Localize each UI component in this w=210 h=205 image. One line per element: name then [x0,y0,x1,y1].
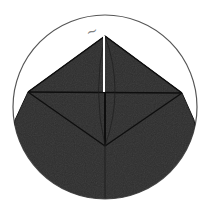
geometry-figure [0,0,210,205]
diagram-canvas: ~ [0,0,210,205]
